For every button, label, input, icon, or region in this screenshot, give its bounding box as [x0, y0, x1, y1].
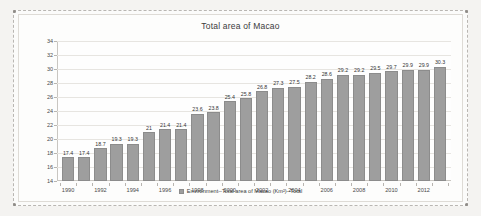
bar-item[interactable]: 28.6 — [319, 41, 335, 181]
bar-item[interactable]: 18.7 — [92, 41, 108, 181]
x-tick-mark — [173, 183, 174, 186]
bar-value-label: 25.4 — [225, 94, 235, 100]
bar-item[interactable]: 29.2 — [335, 41, 351, 181]
bar-value-label: 29.9 — [403, 62, 413, 68]
bar-value-label: 19.3 — [111, 136, 121, 142]
y-tick-label: 16 — [47, 164, 53, 170]
bar-item[interactable]: 27.3 — [270, 41, 286, 181]
bar-item[interactable]: 30.3 — [432, 41, 448, 181]
bar[interactable] — [385, 71, 397, 181]
x-tick-mark — [254, 183, 255, 186]
bar[interactable] — [288, 87, 300, 182]
legend-label: Environment--Total area of Macao (Km²)--… — [187, 188, 302, 194]
bar-item[interactable]: 25.4 — [222, 41, 238, 181]
x-tick-mark — [76, 183, 77, 186]
resize-handle-top-left[interactable] — [13, 10, 16, 13]
bar-value-label: 29.7 — [386, 64, 396, 70]
y-tick-mark — [54, 181, 57, 182]
bar[interactable] — [305, 82, 317, 181]
bar-value-label: 21 — [146, 125, 152, 131]
bar-item[interactable]: 29.9 — [416, 41, 432, 181]
bar-item[interactable]: 23.8 — [206, 41, 222, 181]
x-tick-mark — [383, 183, 384, 186]
bar-value-label: 17.4 — [63, 150, 73, 156]
bar-item[interactable]: 17.4 — [76, 41, 92, 181]
bar[interactable] — [207, 112, 219, 181]
bar-item[interactable]: 25.8 — [238, 41, 254, 181]
bar[interactable] — [159, 129, 171, 181]
bar-value-label: 29.9 — [419, 62, 429, 68]
x-tick-mark — [206, 183, 207, 186]
chart-screenshot: Total area of Macao 14161820222426283032… — [0, 0, 481, 216]
y-tick-label: 34 — [47, 38, 53, 44]
bar-value-label: 23.8 — [208, 105, 218, 111]
bar-value-label: 29.2 — [338, 67, 348, 73]
bar-item[interactable]: 21 — [141, 41, 157, 181]
bar-value-label: 30.3 — [435, 59, 445, 65]
bar-value-label: 21.4 — [176, 122, 186, 128]
plot-area: 1416182022242628303234 17.417.418.719.31… — [57, 41, 451, 181]
bar-item[interactable]: 29.7 — [383, 41, 399, 181]
bar[interactable] — [272, 88, 284, 181]
x-tick-mark — [303, 183, 304, 186]
x-tick-mark — [222, 183, 223, 186]
resize-handle-bottom-right[interactable] — [465, 203, 468, 206]
x-tick-mark — [448, 183, 449, 186]
bar-value-label: 28.2 — [306, 74, 316, 80]
x-tick-mark — [351, 183, 352, 186]
resize-handle-bottom-left[interactable] — [13, 203, 16, 206]
x-tick-mark — [157, 183, 158, 186]
bar-item[interactable]: 29.2 — [351, 41, 367, 181]
bar-item[interactable]: 28.2 — [303, 41, 319, 181]
y-tick-label: 30 — [47, 66, 53, 72]
bar-item[interactable]: 29.5 — [367, 41, 383, 181]
y-tick-label: 20 — [47, 136, 53, 142]
y-tick-label: 26 — [47, 94, 53, 100]
x-tick-mark — [141, 183, 142, 186]
bar-item[interactable]: 26.8 — [254, 41, 270, 181]
resize-handle-top-right[interactable] — [465, 10, 468, 13]
bar[interactable] — [240, 98, 252, 181]
bar-value-label: 27.3 — [273, 80, 283, 86]
bar-item[interactable]: 17.4 — [60, 41, 76, 181]
bar[interactable] — [94, 148, 106, 181]
bar-item[interactable]: 21.4 — [173, 41, 189, 181]
bar-item[interactable]: 27.5 — [286, 41, 302, 181]
bar[interactable] — [337, 75, 349, 181]
x-tick-mark — [432, 183, 433, 186]
x-tick-mark — [286, 183, 287, 186]
bar[interactable] — [175, 129, 187, 181]
bar[interactable] — [78, 157, 90, 181]
bar-item[interactable]: 19.3 — [125, 41, 141, 181]
bar[interactable] — [110, 144, 122, 181]
x-tick-mark — [416, 183, 417, 186]
bar[interactable] — [402, 70, 414, 181]
bar[interactable] — [256, 91, 268, 181]
bar-item[interactable]: 23.6 — [189, 41, 205, 181]
bar[interactable] — [418, 70, 430, 181]
bar-value-label: 18.7 — [95, 141, 105, 147]
bar[interactable] — [62, 157, 74, 181]
bar[interactable] — [224, 101, 236, 181]
bar-value-label: 23.6 — [192, 106, 202, 112]
bar-value-label: 19.3 — [128, 136, 138, 142]
bar-item[interactable]: 19.3 — [109, 41, 125, 181]
bar[interactable] — [143, 132, 155, 181]
bar-value-label: 27.5 — [289, 79, 299, 85]
bar-item[interactable]: 21.4 — [157, 41, 173, 181]
bar[interactable] — [369, 73, 381, 182]
bar-value-label: 21.4 — [160, 122, 170, 128]
x-tick-mark — [367, 183, 368, 186]
chart-container[interactable]: Total area of Macao 14161820222426283032… — [18, 14, 463, 202]
bar-series: 17.417.418.719.319.32121.421.423.623.825… — [57, 41, 451, 181]
bar[interactable] — [127, 144, 139, 181]
bar[interactable] — [321, 79, 333, 181]
y-tick-label: 14 — [47, 178, 53, 184]
bar[interactable] — [434, 67, 446, 181]
x-tick-mark — [92, 183, 93, 186]
chart-legend[interactable]: Environment--Total area of Macao (Km²)--… — [19, 188, 462, 194]
bar[interactable] — [191, 114, 203, 181]
bar-item[interactable]: 29.9 — [400, 41, 416, 181]
bar[interactable] — [353, 75, 365, 181]
y-tick-label: 28 — [47, 80, 53, 86]
